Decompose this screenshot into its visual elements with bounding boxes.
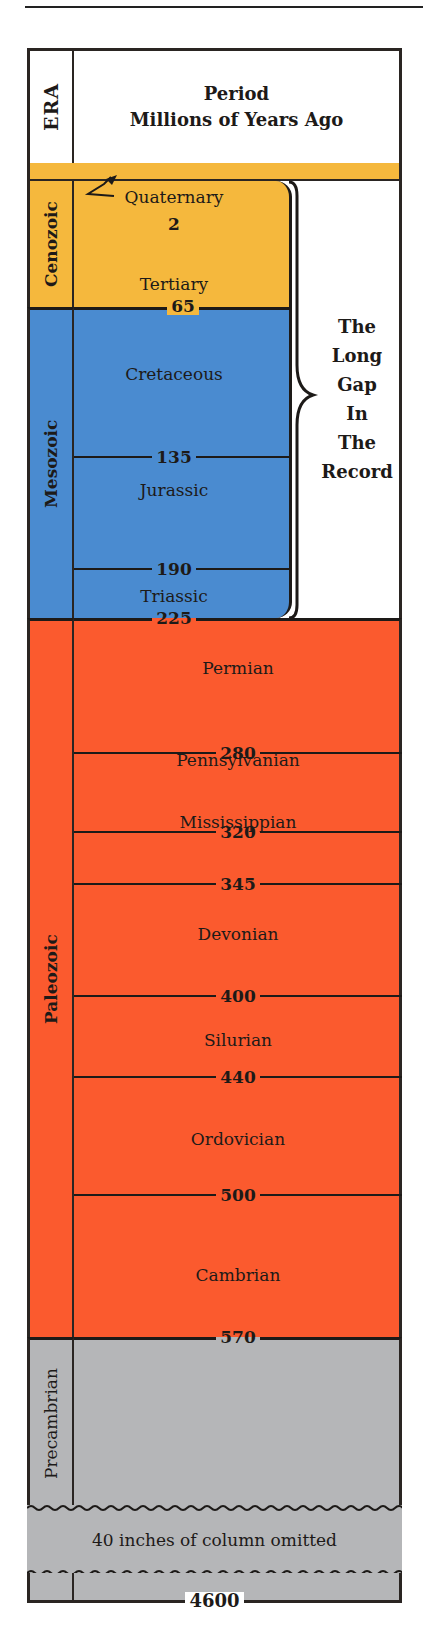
boundary-570-label: 570	[216, 1328, 260, 1346]
boundary-440: 440	[74, 1068, 402, 1086]
period-tertiary: Tertiary	[74, 274, 274, 294]
gap-annotation: The Long Gap In The Record	[314, 312, 400, 486]
period-permian: Permian	[74, 658, 402, 678]
boundary-65-label: 65	[167, 297, 199, 315]
boundary-345: 345	[74, 875, 402, 893]
boundary-225: 225	[74, 609, 274, 627]
gap-line-4: In	[314, 399, 400, 428]
era-label-cenozoic: Cenozoic	[30, 181, 72, 307]
paleozoic-period-cell	[74, 618, 402, 1338]
gap-line-5: The	[314, 428, 400, 457]
gap-line-2: Long	[314, 341, 400, 370]
precambrian-period-cell	[74, 1337, 402, 1509]
period-pennsylvanian: Pennsylvanian	[74, 750, 402, 770]
period-column-header: Period Millions of Years Ago	[74, 51, 399, 163]
boundary-135-label: 135	[152, 448, 196, 466]
period-cambrian: Cambrian	[74, 1265, 402, 1285]
period-mississippian: Mississippian	[74, 812, 402, 832]
period-devonian: Devonian	[74, 924, 402, 944]
boundary-570: 570	[74, 1328, 402, 1346]
period-header-line1: Period	[204, 81, 269, 107]
break-wave-top	[27, 1503, 402, 1513]
era-label-paleozoic: Paleozoic	[30, 621, 72, 1338]
boundary-190: 190	[74, 560, 274, 578]
boundary-190-label: 190	[152, 560, 196, 578]
boundary-400: 400	[74, 987, 402, 1005]
period-silurian: Silurian	[74, 1030, 402, 1050]
era-label-precambrian: Precambrian	[30, 1340, 72, 1508]
top-rule	[25, 6, 423, 8]
omitted-note: 40 inches of column omitted	[27, 1530, 402, 1550]
boundary-500-label: 500	[216, 1186, 260, 1204]
period-cretaceous: Cretaceous	[74, 364, 274, 384]
boundary-500: 500	[74, 1186, 402, 1204]
boundary-4600: 4600	[27, 1592, 402, 1610]
period-quaternary: Quaternary	[74, 187, 274, 207]
period-jurassic: Jurassic	[74, 480, 274, 500]
period-header-line2: Millions of Years Ago	[130, 107, 344, 133]
boundary-225-label: 225	[152, 609, 196, 627]
era-label-mesozoic: Mesozoic	[30, 310, 72, 618]
gap-line-6: Record	[314, 457, 400, 486]
era-column-header: ERA	[30, 51, 72, 163]
boundary-440-label: 440	[216, 1068, 260, 1086]
period-triassic: Triassic	[74, 586, 274, 606]
gap-line-3: Gap	[314, 370, 400, 399]
boundary-345-label: 345	[216, 875, 260, 893]
boundary-4600-label: 4600	[185, 1592, 243, 1610]
period-ordovician: Ordovician	[74, 1129, 402, 1149]
boundary-65: 65	[74, 297, 292, 315]
gap-line-1: The	[314, 312, 400, 341]
boundary-400-label: 400	[216, 987, 260, 1005]
boundary-135: 135	[74, 448, 274, 466]
boundary-2: 2	[74, 214, 274, 234]
